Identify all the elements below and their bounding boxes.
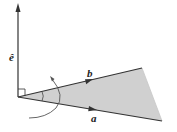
- label-e-hat: ê: [9, 52, 14, 63]
- label-b: b: [87, 68, 93, 79]
- right-angle-marker: [18, 89, 25, 96]
- arrowhead-e-hat-icon: [16, 3, 21, 12]
- diagram-svg: [0, 0, 177, 132]
- vector-diagram: ê b a: [0, 0, 177, 132]
- label-a: a: [91, 113, 97, 124]
